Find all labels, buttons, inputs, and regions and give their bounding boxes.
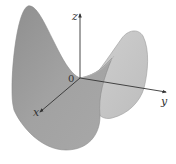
saddle-surface-diagram: z y x 0 — [0, 0, 176, 164]
surface-front — [12, 6, 112, 150]
x-axis-label: x — [33, 106, 40, 119]
z-axis-label: z — [71, 10, 78, 23]
origin-label: 0 — [68, 73, 74, 84]
y-axis-label: y — [160, 95, 168, 108]
